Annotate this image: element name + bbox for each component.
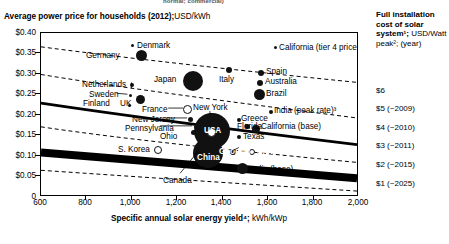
label-new-york: New York bbox=[193, 103, 228, 112]
label-finland: Finland bbox=[83, 99, 110, 108]
x-axis-title: Specific annual solar energy yield⁴; kWh… bbox=[40, 214, 358, 223]
x-tick-1000: 1,000 bbox=[110, 198, 150, 207]
legend-item-6: $6 bbox=[376, 86, 385, 95]
label-brazil: Brazil bbox=[266, 89, 286, 98]
label-uk: UK bbox=[120, 99, 131, 108]
bubble-spain[interactable] bbox=[258, 70, 264, 76]
label-california-tier4: California (tier 4 price rate) bbox=[279, 43, 358, 52]
x-tick-600: 600 bbox=[20, 198, 60, 207]
label-usa: USA bbox=[204, 126, 221, 135]
label-india-peak: India (peak rate)³ bbox=[274, 106, 336, 115]
bubble-france[interactable] bbox=[183, 105, 192, 114]
y-tick-025: $0.25 bbox=[2, 89, 36, 98]
x-axis-title-bold: Specific annual solar energy yield⁴; bbox=[111, 214, 250, 223]
label-australia: Australia bbox=[265, 77, 297, 86]
label-china: China bbox=[197, 153, 220, 162]
plot-area: Denmark Germany Netherlands Sweden Finla… bbox=[40, 32, 358, 196]
bubble-new-jersey[interactable] bbox=[188, 117, 193, 122]
bubble-australia[interactable] bbox=[257, 80, 263, 86]
y-axis-title-bold: Average power price for households (2012… bbox=[4, 12, 174, 21]
bubble-brazil[interactable] bbox=[254, 89, 265, 100]
legend-item-3: $3 (~2011) bbox=[376, 141, 414, 150]
bubble-italy[interactable] bbox=[226, 67, 232, 73]
y-tick-030: $0.30 bbox=[2, 69, 36, 78]
label-georgia: Georgia bbox=[219, 147, 250, 156]
x-tickmark-1000 bbox=[131, 196, 132, 200]
y-axis-title: Average power price for households (2012… bbox=[4, 12, 234, 22]
x-tickmark-1400 bbox=[222, 196, 223, 200]
bubble-uk[interactable] bbox=[136, 95, 145, 104]
label-california-base: California (base) bbox=[261, 122, 321, 131]
legend-item-1: $1 (~2025) bbox=[376, 179, 415, 188]
y-tick-040: $0.40 bbox=[2, 28, 36, 37]
legend-item-5: $5 (~2009) bbox=[376, 104, 415, 113]
x-tickmark-1600 bbox=[267, 196, 268, 200]
x-axis-title-unit: kWh/kWp bbox=[252, 214, 287, 223]
bubble-sweden[interactable] bbox=[129, 94, 132, 97]
bubble-s-korea[interactable] bbox=[154, 146, 162, 154]
bubble-california-tier4[interactable] bbox=[274, 46, 277, 49]
x-tick-2000: 2,000 bbox=[338, 198, 378, 207]
label-s-africa: S. Africa bbox=[257, 147, 290, 156]
y-tick-020: $0.20 bbox=[2, 110, 36, 119]
label-denmark: Denmark bbox=[137, 41, 170, 50]
label-new-jersey: New Jersey bbox=[132, 115, 175, 124]
y-tick-010: $0.10 bbox=[2, 151, 36, 160]
label-s-korea: S. Korea bbox=[118, 145, 150, 154]
x-tickmark-1800 bbox=[313, 196, 314, 200]
label-ohio: Ohio bbox=[160, 132, 177, 141]
label-india-base: India (base) bbox=[250, 165, 293, 174]
y-tick-035: $0.35 bbox=[2, 48, 36, 57]
legend-title: Full installation cost of solar system¹;… bbox=[376, 10, 448, 48]
legend-item-2: $2 (~2015) bbox=[376, 160, 415, 169]
legend-item-4: $4 (~2010) bbox=[376, 123, 415, 132]
chart-root: normal; commercial) Average power price … bbox=[0, 0, 449, 244]
x-tickmark-800 bbox=[85, 196, 86, 200]
bubble-india-peak[interactable] bbox=[269, 110, 273, 114]
label-canada: Canada bbox=[163, 176, 192, 185]
label-spain: Spain bbox=[266, 67, 287, 76]
bubble-japan[interactable] bbox=[183, 71, 203, 91]
label-netherlands: Netherlands bbox=[82, 80, 126, 89]
label-france: France bbox=[142, 105, 167, 114]
top-caption: normal; commercial) bbox=[163, 0, 283, 5]
x-tick-1400: 1,400 bbox=[201, 198, 241, 207]
bubble-texas[interactable] bbox=[237, 135, 241, 139]
label-italy: Italy bbox=[219, 75, 234, 84]
x-tick-1800: 1,800 bbox=[292, 198, 332, 207]
x-tickmark-1200 bbox=[176, 196, 177, 200]
bubble-germany[interactable] bbox=[136, 50, 147, 61]
label-japan: Japan bbox=[154, 75, 176, 84]
label-florida: Florida bbox=[237, 122, 262, 131]
bubble-india-base[interactable] bbox=[237, 163, 248, 174]
y-tick-005: $0.05 bbox=[2, 171, 36, 180]
label-germany: Germany bbox=[86, 51, 120, 60]
label-texas: Texas bbox=[243, 132, 264, 141]
label-sweden: Sweden bbox=[89, 90, 119, 99]
y-axis-title-unit: USD/kWh bbox=[174, 12, 210, 21]
bubble-denmark[interactable] bbox=[131, 44, 134, 47]
bubble-netherlands[interactable] bbox=[130, 83, 134, 87]
y-tick-015: $0.15 bbox=[2, 130, 36, 139]
